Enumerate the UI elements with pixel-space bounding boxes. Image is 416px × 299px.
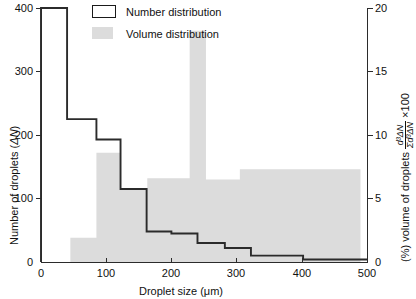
y-axis-right-tick-10 [368, 135, 373, 136]
y-axis-left-label-0: 0 [6, 257, 33, 268]
y-axis-left-title: Number of droplets (ΔN) [8, 126, 20, 245]
y-axis-right-title: (%) volume of droplets d³ΔN Σd³ΔN ×100 [396, 93, 416, 262]
x-axis-label-400: 400 [288, 268, 316, 279]
x-axis-tick-100 [106, 258, 107, 263]
y-axis-left-tick-300 [36, 71, 41, 72]
x-axis-title-text: Droplet size (μm) [139, 285, 223, 297]
x-axis-label-100: 100 [92, 268, 120, 279]
y-axis-right-title-fraction: d³ΔN Σd³ΔN [396, 121, 416, 149]
y-axis-right-label-5: 5 [375, 193, 381, 204]
y-axis-left-tick-200 [36, 135, 41, 136]
y-axis-left-label-300: 300 [6, 66, 33, 77]
y-axis-left-tick-100 [36, 198, 41, 199]
y-axis-left-line [41, 8, 42, 263]
y-axis-left-tick-400 [36, 8, 41, 9]
x-axis-label-500: 500 [353, 268, 381, 279]
y-axis-left-title-symbol: ΔN [8, 129, 20, 144]
legend-label-number-distribution: Number distribution [126, 7, 221, 18]
x-axis-tick-400 [302, 258, 303, 263]
y-axis-right-label-15: 15 [375, 66, 387, 77]
y-axis-right-label-20: 20 [375, 3, 387, 14]
x-axis-line [41, 262, 368, 263]
volume-distribution-bars [70, 31, 360, 262]
y-axis-right-label-10: 10 [375, 130, 387, 141]
y-axis-left-title-text-a: Number of droplets ( [8, 145, 20, 245]
y-axis-right-title-text-b: ×100 [399, 93, 411, 118]
x-axis-title: Droplet size (μm) [139, 285, 223, 297]
y-axis-left-title-text-c: ) [8, 126, 20, 130]
y-axis-left-label-400: 400 [6, 3, 33, 14]
y-axis-right-fraction-denominator: Σd³ΔN [406, 121, 415, 149]
x-axis-tick-300 [236, 258, 237, 263]
y-axis-right-tick-5 [368, 198, 373, 199]
legend-swatch-volume-distribution [92, 27, 113, 39]
legend-swatch-number-distribution [92, 5, 116, 18]
x-axis-label-300: 300 [222, 268, 250, 279]
x-axis-label-0: 0 [27, 268, 55, 279]
x-axis-label-200: 200 [157, 268, 185, 279]
y-axis-right-tick-15 [368, 71, 373, 72]
y-axis-right-title-text-a: (%) volume of droplets [399, 152, 411, 262]
y-axis-right-tick-20 [368, 8, 373, 9]
x-axis-tick-200 [171, 258, 172, 263]
legend-label-volume-distribution: Volume distribution [126, 29, 219, 40]
